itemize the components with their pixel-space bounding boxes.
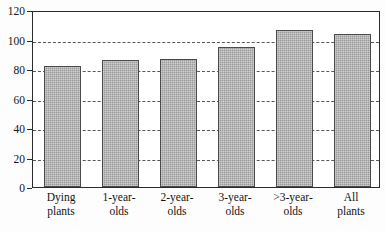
bar (334, 34, 371, 187)
y-tick-mark (27, 70, 32, 71)
bar (276, 30, 313, 187)
y-tick-mark (27, 188, 32, 189)
y-tick-mark (27, 159, 32, 160)
x-tick-label: Allplants (322, 191, 380, 218)
x-tick-label: 1-year-olds (90, 191, 148, 218)
bar (44, 66, 81, 187)
y-tick-label: 60 (0, 94, 25, 106)
y-tick-mark (27, 100, 32, 101)
gridline (33, 101, 379, 102)
x-tick-label-line: olds (148, 205, 206, 219)
gridline (33, 71, 379, 72)
x-tick-label-line: plants (32, 205, 90, 219)
bar-chart: Dyingplants1-year-olds2-year-olds3-year-… (0, 0, 386, 231)
y-tick-label: 0 (0, 182, 25, 194)
x-tick-label: 2-year-olds (148, 191, 206, 218)
gridline (33, 130, 379, 131)
x-tick-label-line: olds (206, 205, 264, 219)
plot-area (32, 11, 380, 188)
bar (102, 60, 139, 187)
gridline (33, 42, 379, 43)
x-tick-label: 3-year-olds (206, 191, 264, 218)
y-tick-mark (27, 41, 32, 42)
gridline (33, 160, 379, 161)
y-tick-mark (27, 11, 32, 12)
x-tick-label-line: All (322, 191, 380, 205)
y-tick-label: 120 (0, 5, 25, 17)
x-tick-label-line: olds (264, 205, 322, 219)
y-tick-label: 40 (0, 123, 25, 135)
x-tick-label-line: 3-year- (206, 191, 264, 205)
x-tick-label: >3-year-olds (264, 191, 322, 218)
x-tick-label-line: 1-year- (90, 191, 148, 205)
bar (218, 47, 255, 187)
x-tick-label-line: 2-year- (148, 191, 206, 205)
x-tick-label-line: Dying (32, 191, 90, 205)
y-tick-label: 80 (0, 64, 25, 76)
x-tick-label-line: olds (90, 205, 148, 219)
x-tick-label-line: plants (322, 205, 380, 219)
y-tick-label: 100 (0, 35, 25, 47)
y-tick-mark (27, 129, 32, 130)
y-tick-label: 20 (0, 153, 25, 165)
x-tick-label: Dyingplants (32, 191, 90, 218)
x-axis-labels: Dyingplants1-year-olds2-year-olds3-year-… (32, 191, 380, 231)
bar (160, 59, 197, 187)
x-tick-label-line: >3-year- (264, 191, 322, 205)
